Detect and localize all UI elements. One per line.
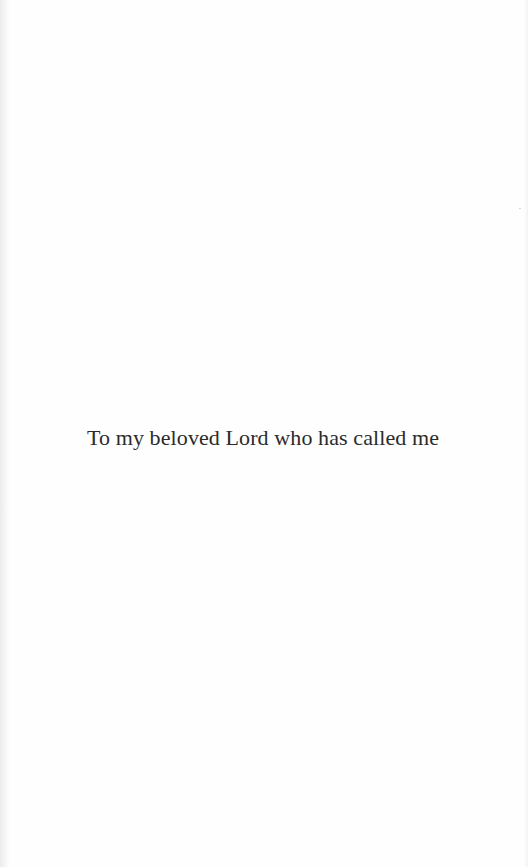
- gutter-shadow: [0, 0, 10, 867]
- dedication-text: To my beloved Lord who has called me: [87, 424, 447, 452]
- page-edge: [524, 0, 528, 867]
- scan-speck: [519, 208, 521, 209]
- book-page: To my beloved Lord who has called me: [0, 0, 528, 867]
